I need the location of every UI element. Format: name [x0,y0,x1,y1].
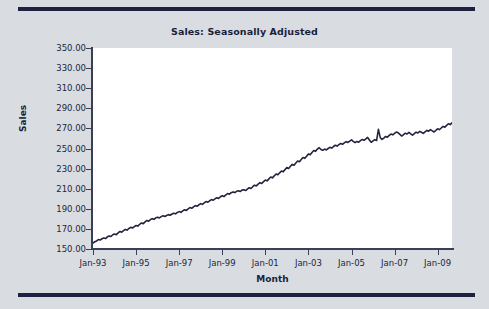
y-axis-tick-label: 330.00 [36,63,86,73]
x-axis-tick-mark [308,250,309,255]
y-axis-tick-label-wrap: 210.00 [30,189,86,190]
y-axis-tick-label: 290.00 [36,103,86,113]
y-axis-tick-mark [86,88,91,89]
y-axis-tick-mark [86,68,91,69]
sales-line-series [93,48,452,249]
y-axis-tick-label-wrap: 290.00 [30,108,86,109]
y-axis-tick-mark [86,249,91,250]
y-axis-tick-label-wrap: 330.00 [30,68,86,69]
x-axis-tick-mark [265,250,266,255]
x-axis-tick-mark [438,250,439,255]
y-axis-tick-label-wrap: 350.00 [30,48,86,49]
y-axis-tick-label-wrap: 170.00 [30,229,86,230]
y-axis-tick-label: 150.00 [36,244,86,254]
y-axis-tick-mark [86,229,91,230]
y-axis-tick-label: 270.00 [36,123,86,133]
y-axis-tick-mark [86,48,91,49]
y-axis-tick-label: 190.00 [36,204,86,214]
y-axis-tick-label: 310.00 [36,83,86,93]
x-axis-title: Month [93,274,452,284]
y-axis-tick-label: 210.00 [36,184,86,194]
y-axis-tick-label: 250.00 [36,144,86,154]
y-axis-tick-mark [86,209,91,210]
y-axis-tick-label-wrap: 310.00 [30,88,86,89]
x-axis-line [91,248,454,250]
y-axis-tick-label-wrap: 150.00 [30,249,86,250]
y-axis-tick-label-wrap: 230.00 [30,169,86,170]
y-axis-tick-mark [86,149,91,150]
y-axis-tick-label-wrap: 190.00 [30,209,86,210]
x-axis-tick-mark [136,250,137,255]
y-axis-tick-label-wrap: 270.00 [30,128,86,129]
x-axis-tick-label: Jan-09 [408,258,468,268]
y-axis-tick-mark [86,169,91,170]
x-axis-tick-mark [352,250,353,255]
top-divider-rule [18,7,475,11]
sales-line-path [93,52,452,243]
chart-title: Sales: Seasonally Adjusted [0,26,489,37]
y-axis-tick-label-wrap: 250.00 [30,149,86,150]
x-axis-tick-mark [179,250,180,255]
y-axis-tick-mark [86,108,91,109]
y-axis-tick-label: 350.00 [36,43,86,53]
y-axis-tick-label: 230.00 [36,164,86,174]
y-axis-line [91,47,93,250]
bottom-divider-rule [18,293,475,297]
y-axis-tick-mark [86,128,91,129]
x-axis-tick-mark [93,250,94,255]
y-axis-title: Sales [18,105,28,132]
y-axis-tick-label: 170.00 [36,224,86,234]
y-axis-tick-mark [86,189,91,190]
chart-figure: Sales: Seasonally Adjusted Sales 350.003… [0,0,489,309]
x-axis-tick-mark [395,250,396,255]
plot-area [93,48,452,249]
x-axis-tick-mark [222,250,223,255]
